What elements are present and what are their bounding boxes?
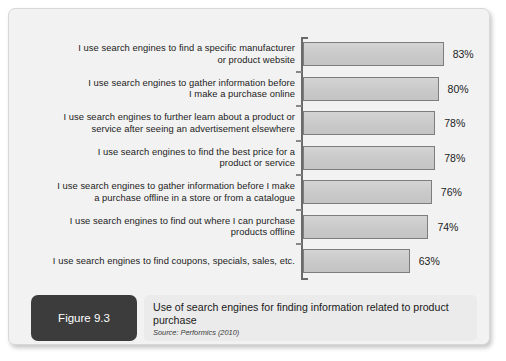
bar-value-label: 80% — [448, 83, 469, 95]
bar-row: I use search engines to find out where I… — [9, 210, 491, 245]
figure-caption: Figure 9.3 Use of search engines for fin… — [31, 295, 477, 341]
bar-wrapper: 80% — [303, 77, 469, 101]
bar — [303, 42, 444, 66]
axis-tick — [296, 105, 302, 107]
bar — [303, 111, 435, 135]
bar-category-label-line: I use search engines to find a specific … — [30, 43, 295, 55]
caption-title: Use of search engines for finding inform… — [153, 301, 469, 327]
bar-category-label-line: product or service — [30, 158, 295, 170]
axis-tick — [296, 174, 302, 176]
bar-row: I use search engines to find a specific … — [9, 37, 491, 72]
bar-row: I use search engines to gather informati… — [9, 175, 491, 210]
bar-category-label-line: I use search engines to gather informati… — [30, 77, 295, 89]
bar-category-label: I use search engines to find a specific … — [30, 43, 295, 66]
bar — [303, 249, 410, 273]
bar-category-label-line: I use search engines to gather informati… — [30, 181, 295, 193]
bar-category-label: I use search engines to find the best pr… — [30, 146, 295, 169]
bar — [303, 180, 432, 204]
bar-category-label-line: service after seeing an advertisement el… — [30, 123, 295, 135]
bar-category-label: I use search engines to further learn ab… — [30, 112, 295, 135]
bar-value-label: 83% — [453, 48, 474, 60]
axis-tick — [296, 140, 302, 142]
figure-number-badge: Figure 9.3 — [31, 295, 137, 341]
figure-number-label: Figure 9.3 — [58, 312, 110, 324]
bar-chart: I use search engines to find a specific … — [9, 15, 491, 277]
bar-value-label: 78% — [444, 117, 465, 129]
axis-tick — [296, 209, 302, 211]
bar-row: I use search engines to gather informati… — [9, 72, 491, 107]
bar-wrapper: 78% — [303, 111, 465, 135]
caption-body: Use of search engines for finding inform… — [144, 295, 477, 341]
bar — [303, 215, 428, 239]
bar-wrapper: 78% — [303, 146, 465, 170]
bar-category-label-line: a purchase offline in a store or from a … — [30, 192, 295, 204]
bar-wrapper: 76% — [303, 180, 462, 204]
figure-root: I use search engines to find a specific … — [0, 0, 506, 361]
bar-category-label: I use search engines to gather informati… — [30, 77, 295, 100]
bar-category-label: I use search engines to find coupons, sp… — [30, 255, 295, 267]
bar-category-label: I use search engines to gather informati… — [30, 181, 295, 204]
figure-panel: I use search engines to find a specific … — [8, 8, 490, 345]
bar-wrapper: 63% — [303, 249, 440, 273]
bar-value-label: 76% — [441, 186, 462, 198]
bar-category-label-line: I use search engines to find coupons, sp… — [30, 255, 295, 267]
bar-wrapper: 83% — [303, 42, 474, 66]
bar-category-label-line: I use search engines to further learn ab… — [30, 112, 295, 124]
bar-value-label: 63% — [419, 255, 440, 267]
axis-tick — [296, 243, 302, 245]
caption-source: Source: Performics (2010) — [153, 328, 469, 338]
bar-category-label-line: or product website — [30, 54, 295, 66]
bar-category-label-line: products offline — [30, 227, 295, 239]
bar — [303, 146, 435, 170]
bar-category-label-line: I use search engines to find out where I… — [30, 215, 295, 227]
bar-category-label-line: I make a purchase online — [30, 89, 295, 101]
bar-category-label: I use search engines to find out where I… — [30, 215, 295, 238]
bar — [303, 77, 439, 101]
axis-tick — [296, 71, 302, 73]
bar-row: I use search engines to further learn ab… — [9, 106, 491, 141]
bar-wrapper: 74% — [303, 215, 458, 239]
bar-category-label-line: I use search engines to find the best pr… — [30, 146, 295, 158]
bar-value-label: 74% — [437, 221, 458, 233]
bar-row: I use search engines to find the best pr… — [9, 141, 491, 176]
bar-value-label: 78% — [444, 152, 465, 164]
bar-row: I use search engines to find coupons, sp… — [9, 244, 491, 279]
bar-rows: I use search engines to find a specific … — [9, 37, 491, 279]
